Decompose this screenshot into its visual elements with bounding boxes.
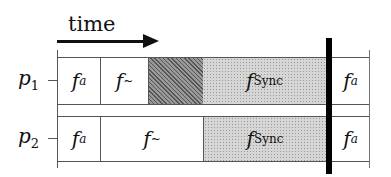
- segment-p2-ftilde: f~: [100, 117, 203, 161]
- segment-p1-fa-after: fa: [332, 58, 369, 104]
- process-label-p1: p1: [18, 66, 39, 93]
- segment-p1-idle-hatched: [148, 58, 203, 104]
- time-label: time: [68, 12, 116, 36]
- tick: [48, 138, 57, 139]
- row2-bottom: [57, 161, 369, 162]
- segment-p1-fsync: fSync: [203, 58, 326, 104]
- time-arrow: [57, 40, 149, 43]
- segment-p2-fa: fa: [57, 117, 100, 161]
- segment-p2-fa-after: fa: [332, 117, 369, 161]
- tick: [48, 80, 57, 81]
- segment-p1-fa: fa: [57, 58, 100, 104]
- arrowhead-icon: [143, 34, 159, 48]
- process-label-p2: p2: [18, 124, 39, 151]
- sync-barrier: [326, 38, 332, 174]
- row1-bottom: [57, 104, 369, 105]
- segment-p1-ftilde: f~: [100, 58, 148, 104]
- segment-p2-fsync: fSync: [203, 117, 326, 161]
- right-edge: [369, 50, 370, 168]
